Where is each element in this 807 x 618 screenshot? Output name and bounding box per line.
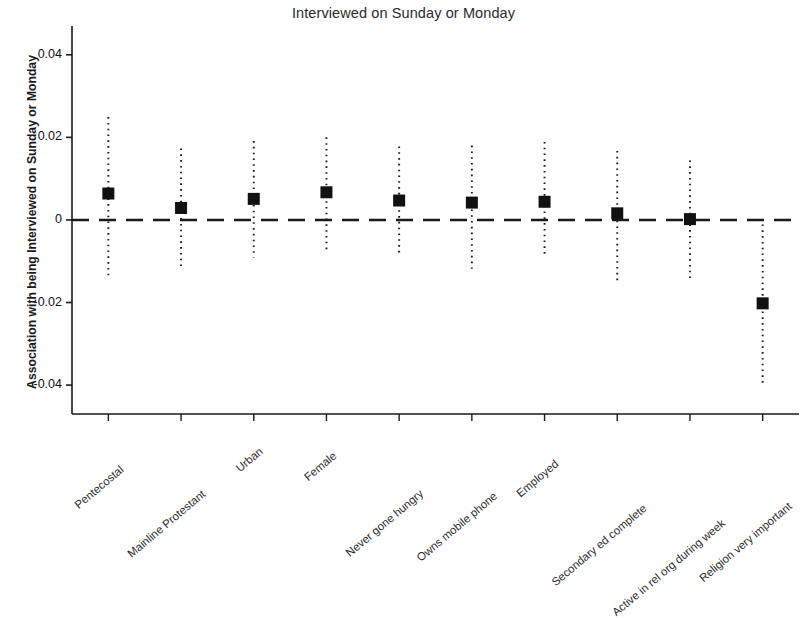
estimate-marker (611, 207, 623, 219)
data-point-group (684, 160, 696, 280)
data-point-group (611, 151, 623, 281)
estimate-marker (320, 186, 332, 198)
data-point-group (539, 142, 551, 258)
estimate-marker (393, 195, 405, 207)
data-series (102, 117, 768, 386)
data-point-group (175, 149, 187, 271)
data-point-group (248, 141, 260, 257)
data-point-group (393, 146, 405, 254)
y-tick-label: 0.04 (18, 47, 62, 61)
y-tick-label: -0.02 (18, 295, 62, 309)
data-point-group (757, 224, 769, 385)
estimate-marker (102, 188, 114, 200)
estimate-marker (757, 297, 769, 309)
y-tick-label: -0.04 (18, 377, 62, 391)
estimate-marker (466, 197, 478, 209)
y-tick-label: 0 (18, 212, 62, 226)
data-point-group (466, 146, 478, 269)
estimate-marker (539, 196, 551, 208)
estimate-marker (175, 202, 187, 214)
data-point-group (320, 137, 332, 250)
data-point-group (102, 117, 114, 279)
y-tick-label: 0.02 (18, 129, 62, 143)
chart-title: Interviewed on Sunday or Monday (0, 5, 807, 21)
estimate-marker (248, 193, 260, 205)
estimate-marker (684, 213, 696, 225)
